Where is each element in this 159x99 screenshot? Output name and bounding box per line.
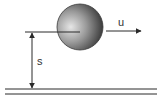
diagram-canvas <box>0 0 159 99</box>
ball <box>57 4 103 50</box>
height-label: s <box>37 56 43 67</box>
velocity-label: u <box>118 17 124 28</box>
